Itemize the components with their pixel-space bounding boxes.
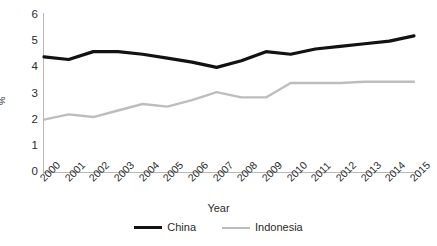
x-tick-label-2013: 2013 (359, 159, 383, 183)
legend-swatch-indonesia (222, 227, 250, 229)
legend-label-indonesia: Indonesia (255, 222, 303, 233)
x-tick-label-2002: 2002 (87, 159, 111, 183)
x-tick-label-2011: 2011 (309, 160, 332, 183)
line-chart-figure: 6543210 % 200020012002200320042005200620… (0, 0, 437, 246)
x-tick-label-2014: 2014 (383, 159, 407, 183)
x-tick-label-2012: 2012 (334, 159, 358, 183)
x-tick-label-2007: 2007 (211, 159, 235, 183)
legend-item-indonesia[interactable]: Indonesia (222, 222, 303, 233)
x-tick-label-2001: 2001 (63, 159, 87, 183)
x-tick-label-2003: 2003 (112, 159, 136, 183)
x-tick-label-2010: 2010 (285, 159, 309, 183)
x-tick-label-2004: 2004 (137, 159, 161, 183)
legend-item-china[interactable]: China (134, 222, 196, 233)
x-tick-label-2008: 2008 (235, 159, 259, 183)
chart-legend: ChinaIndonesia (0, 222, 437, 233)
x-tick-label-2005: 2005 (161, 159, 185, 183)
x-tick-label-2009: 2009 (260, 159, 284, 183)
x-tick-label-2015: 2015 (408, 159, 432, 183)
x-tick-label-2000: 2000 (38, 159, 62, 183)
x-tick-label-2006: 2006 (186, 159, 210, 183)
legend-swatch-china (134, 226, 162, 229)
legend-label-china: China (167, 222, 196, 233)
x-axis-title: Year (0, 202, 437, 214)
